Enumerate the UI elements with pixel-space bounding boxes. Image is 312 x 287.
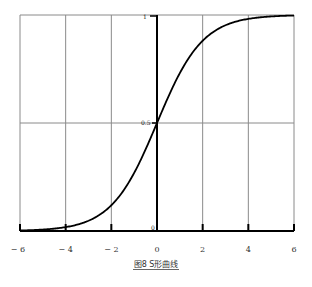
y-label-top: 1: [143, 13, 147, 20]
caption-text: 图8 S形曲线: [133, 260, 180, 270]
x-tick-label: − 4: [58, 245, 72, 254]
x-tick-label: − 2: [104, 245, 118, 254]
x-tick-label: 2: [200, 245, 205, 254]
x-tick-label: 0: [154, 245, 159, 254]
x-tick-label: 6: [291, 245, 296, 254]
sigmoid-chart: [0, 0, 312, 287]
y-label-origin: 0: [151, 224, 155, 231]
y-label-mid: 0.5: [141, 119, 151, 126]
x-tick-label: − 6: [11, 245, 25, 254]
figure-caption: 图8 S形曲线: [0, 258, 312, 269]
x-tick-label: 4: [246, 245, 251, 254]
